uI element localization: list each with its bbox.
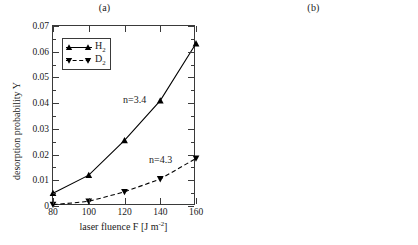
y-tick-major	[53, 180, 59, 181]
panel-a-legend-row-d2: D2	[66, 54, 106, 67]
x-tick-label: 80	[48, 207, 58, 217]
data-point-H2	[193, 40, 200, 46]
x-tick-major	[53, 198, 54, 204]
y-tick-minor	[191, 39, 194, 40]
y-tick-major	[53, 77, 59, 78]
y-tick-minor	[191, 90, 194, 91]
y-tick-major	[53, 155, 59, 156]
y-tick-minor	[53, 167, 56, 168]
panel-a-y-axis-label: desorption probability Y	[11, 82, 22, 180]
y-tick-minor	[191, 142, 194, 143]
y-tick-minor	[191, 65, 194, 66]
x-tick-major	[53, 26, 54, 32]
x-tick-label: 140	[153, 207, 167, 217]
y-tick-minor	[53, 90, 56, 91]
y-tick-major	[188, 26, 194, 27]
y-tick-major	[188, 155, 194, 156]
data-point-D2	[121, 189, 128, 195]
data-point-D2	[157, 176, 164, 182]
x-tick-major	[125, 26, 126, 32]
down-triangle-dashed-line-icon	[66, 55, 92, 66]
x-tick-major	[89, 198, 90, 204]
y-tick-label: 0.06	[32, 47, 49, 57]
y-tick-minor	[53, 65, 56, 66]
y-tick-minor	[191, 167, 194, 168]
y-tick-minor	[53, 39, 56, 40]
x-tick-label: 160	[189, 207, 203, 217]
panel-a-x-axis-label: laser fluence F [J m-2]	[80, 220, 168, 232]
panel-a-legend-row-h2: H2	[66, 41, 106, 54]
y-tick-major	[53, 129, 59, 130]
y-tick-major	[53, 52, 59, 53]
y-tick-label: 0.02	[32, 150, 49, 160]
y-tick-major	[53, 103, 59, 104]
y-tick-label: 0.01	[32, 175, 49, 185]
x-tick-major	[160, 26, 161, 32]
y-tick-label: 0.05	[32, 72, 49, 82]
panel-b-title: (b)	[209, 2, 418, 13]
y-tick-minor	[53, 142, 56, 143]
up-triangle-solid-line-icon	[66, 42, 92, 53]
x-tick-major	[196, 26, 197, 32]
figure-root: (a) desorption probability Y 00.010.020.…	[0, 0, 418, 245]
x-tick-label: 120	[117, 207, 131, 217]
data-point-D2	[193, 156, 200, 162]
y-tick-major	[188, 52, 194, 53]
x-tick-major	[196, 198, 197, 204]
x-tick-major	[125, 198, 126, 204]
panel-a-title: (a)	[0, 2, 209, 13]
y-tick-label: 0.04	[32, 98, 49, 108]
x-tick-label: 100	[82, 207, 96, 217]
y-tick-minor	[53, 193, 56, 194]
panel-a-annotation-h2: n=3.4	[123, 94, 146, 105]
panel-a-annotation-d2: n=4.3	[149, 154, 172, 165]
y-tick-minor	[53, 116, 56, 117]
panel-a-legend-label-d2: D2	[95, 53, 106, 67]
y-tick-major	[188, 180, 194, 181]
panel-a-legend: H2 D2	[62, 38, 111, 70]
x-tick-major	[89, 26, 90, 32]
data-point-H2	[157, 97, 164, 103]
y-tick-major	[188, 77, 194, 78]
y-tick-major	[188, 103, 194, 104]
y-tick-major	[188, 129, 194, 130]
panel-a: (a) desorption probability Y 00.010.020.…	[0, 0, 209, 245]
x-tick-major	[160, 198, 161, 204]
y-tick-label: 0.03	[32, 124, 49, 134]
y-tick-minor	[191, 116, 194, 117]
y-tick-label: 0.07	[32, 21, 49, 31]
y-tick-minor	[191, 193, 194, 194]
panel-b: (b) desorption probability Y 00.0020.004…	[209, 0, 418, 245]
panel-a-plot-area: 00.010.020.030.040.050.060.0780100120140…	[52, 25, 195, 205]
